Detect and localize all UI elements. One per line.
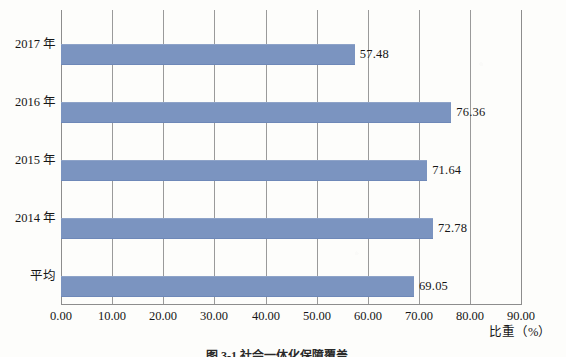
plot-area: 57.48 76.36 71.64 72.78 69.05 <box>61 10 521 304</box>
category-label: 平均 <box>0 269 56 283</box>
bar-value-label: 76.36 <box>456 102 485 123</box>
bar-row: 71.64 <box>61 143 521 197</box>
gridline-90 <box>521 10 522 304</box>
bar-2016[interactable] <box>61 102 451 123</box>
bar-2014[interactable] <box>61 218 433 239</box>
x-axis-line <box>61 304 522 305</box>
x-tick-label: 90.00 <box>491 308 551 324</box>
category-label: 2017 年 <box>0 37 56 51</box>
x-axis-title: 比重（%） <box>489 325 551 340</box>
category-label: 2015 年 <box>0 153 56 167</box>
bar-value-label: 72.78 <box>438 218 467 239</box>
figure-caption: 图 3-1 社会一体化保障覆盖… <box>0 349 566 357</box>
bar-chart-figure: 2017 年 2016 年 2015 年 2014 年 平均 57.48 76.… <box>0 0 566 357</box>
category-label: 2016 年 <box>0 95 56 109</box>
bar-2015[interactable] <box>61 160 427 181</box>
category-axis-labels: 2017 年 2016 年 2015 年 2014 年 平均 <box>0 10 56 304</box>
bar-2017[interactable] <box>61 44 355 65</box>
bar-value-label: 57.48 <box>360 44 389 65</box>
value-axis-labels: 0.00 10.00 20.00 30.00 40.00 50.00 60.00… <box>0 308 566 326</box>
bar-value-label: 71.64 <box>432 160 461 181</box>
bar-value-label: 69.05 <box>419 276 448 297</box>
category-label: 2014 年 <box>0 211 56 225</box>
x-tick-label: 30.00 <box>184 308 244 324</box>
bar-average[interactable] <box>61 276 414 297</box>
bar-row: 76.36 <box>61 85 521 139</box>
bar-row: 57.48 <box>61 27 521 81</box>
bar-row: 72.78 <box>61 201 521 255</box>
